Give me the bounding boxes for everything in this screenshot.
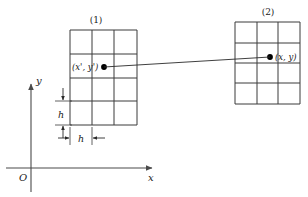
x-axis-label: x xyxy=(148,172,154,183)
box1-caption: (1) xyxy=(90,15,103,25)
mapping-connector-line xyxy=(104,57,270,67)
figure-container: y x O (1) (x', y') xyxy=(0,0,308,197)
vertical-spacing-label: h xyxy=(58,109,64,120)
box2-point-label: (x, y) xyxy=(275,52,297,62)
y-axis-label: y xyxy=(35,75,42,86)
grid-box-2: (2) (x, y) xyxy=(235,7,300,104)
origin-label: O xyxy=(19,172,27,183)
horizontal-spacing-dimension: h xyxy=(58,127,105,145)
vertical-spacing-dimension: h xyxy=(55,88,72,138)
box1-point-label: (x', y') xyxy=(72,62,98,72)
box2-caption: (2) xyxy=(262,7,275,17)
mesh-mapping-diagram: y x O (1) (x', y') xyxy=(0,0,308,197)
grid-box-1: (1) (x', y') xyxy=(70,15,137,125)
horizontal-spacing-label: h xyxy=(78,133,84,144)
